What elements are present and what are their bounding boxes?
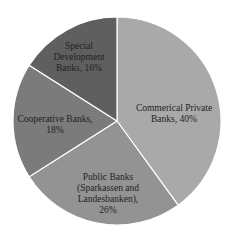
pie-chart: Commerical PrivateBanks, 40%Public Banks… [0,0,232,242]
